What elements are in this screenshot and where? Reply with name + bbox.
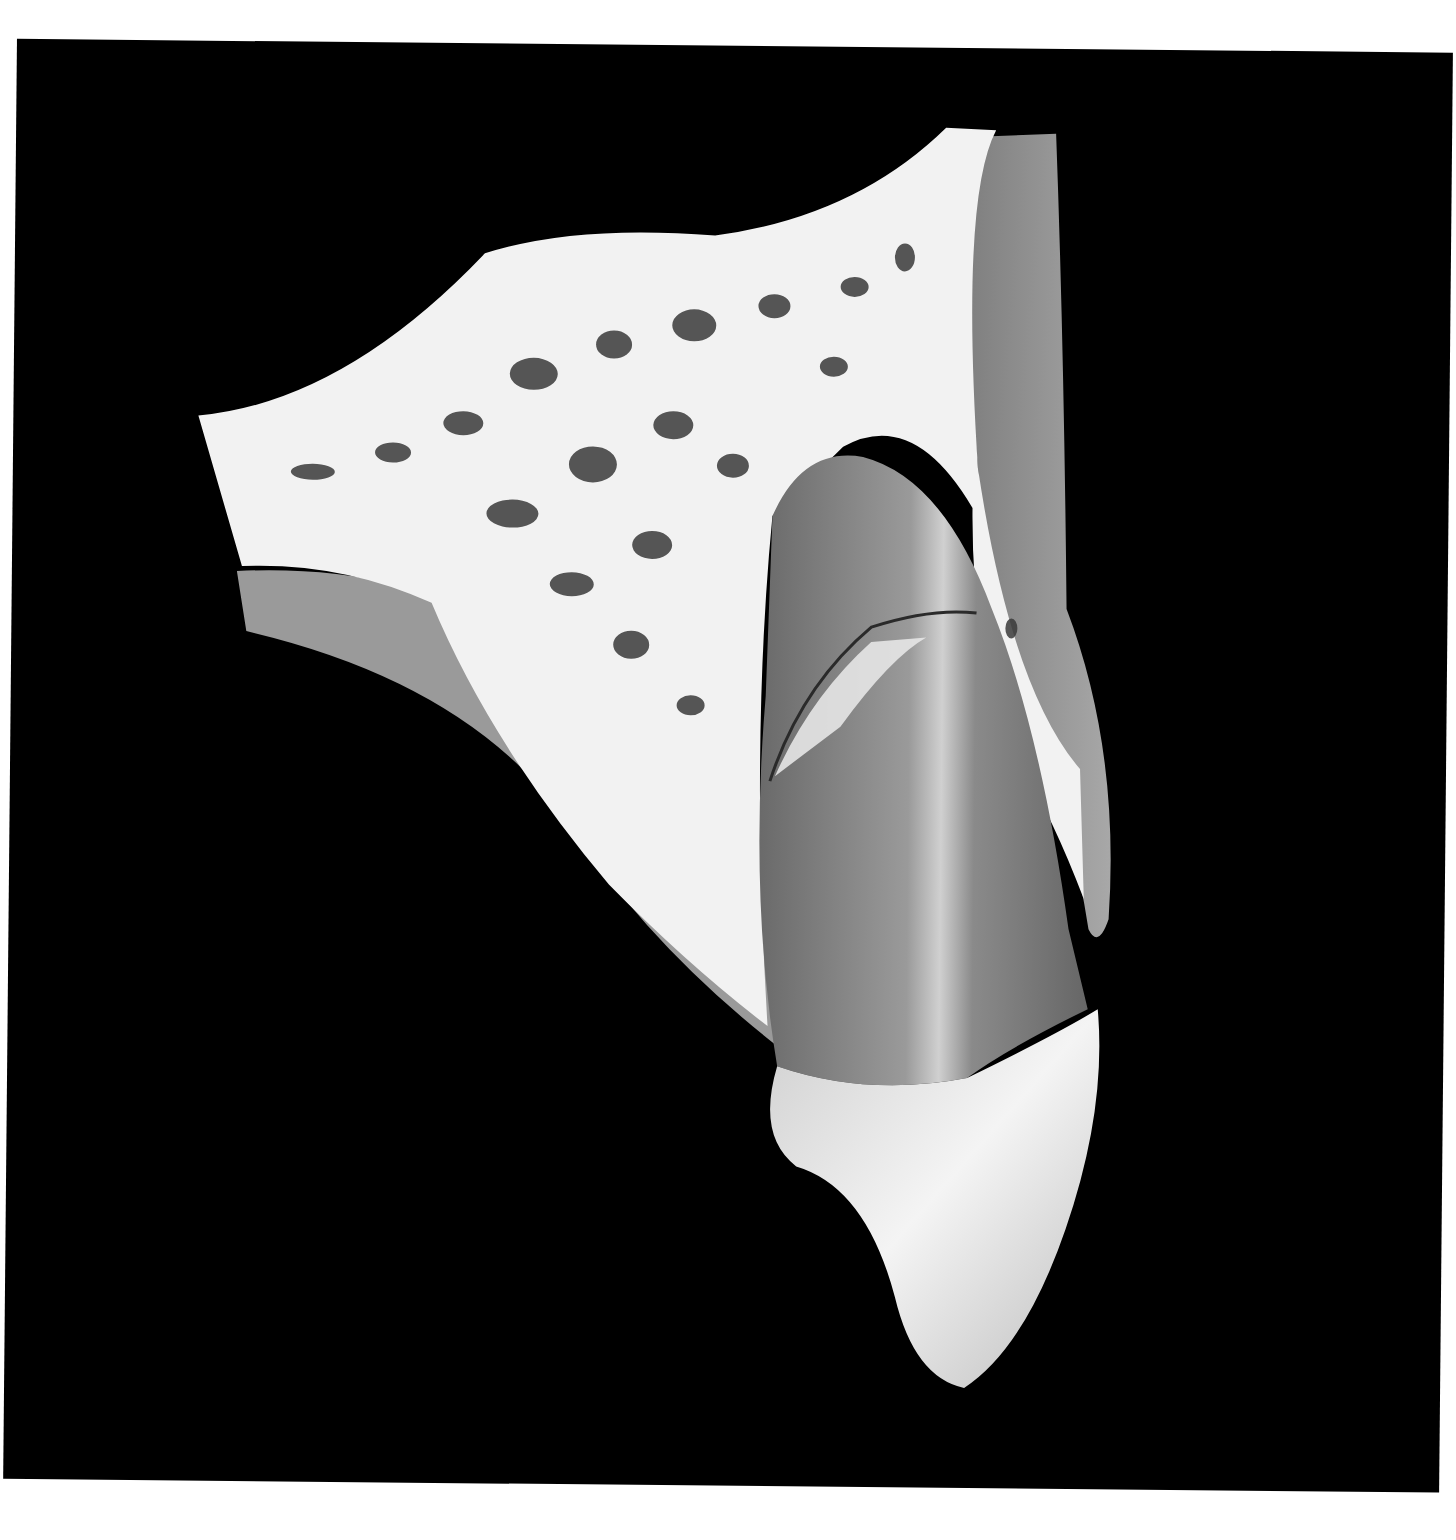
illustration-frame — [3, 39, 1456, 1501]
tooth-illustration — [3, 39, 1456, 1540]
